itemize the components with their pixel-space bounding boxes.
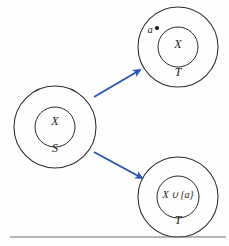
target-bottom-outer-label: T	[175, 213, 183, 227]
source-outer-label: S	[52, 141, 58, 155]
source-inner-label: X	[50, 114, 59, 128]
target-bottom-group: X ∪ {a} T	[138, 157, 218, 237]
target-top-inner-label: X	[173, 37, 182, 51]
target-top-element-dot	[155, 26, 159, 30]
arrow-to-top	[94, 70, 140, 97]
target-top-group: X T a	[138, 7, 218, 87]
set-diagram-figure: X S X T a X ∪ {a} T	[0, 0, 229, 246]
diagram-canvas: X S X T a X ∪ {a} T	[0, 0, 229, 246]
source-set-group: X S	[14, 86, 96, 168]
target-top-element-label: a	[147, 24, 152, 35]
target-bottom-inner-label: X ∪ {a}	[161, 189, 193, 200]
arrow-to-bottom	[94, 152, 142, 178]
